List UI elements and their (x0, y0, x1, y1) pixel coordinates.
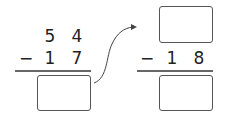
right-bottom-tens: 1 (165, 49, 179, 67)
right-top-box[interactable] (159, 6, 213, 43)
right-sum-line (137, 70, 213, 72)
right-answer-box[interactable] (159, 75, 213, 111)
right-minus-sign: − (140, 49, 154, 67)
right-bottom-ones: 8 (192, 49, 206, 67)
